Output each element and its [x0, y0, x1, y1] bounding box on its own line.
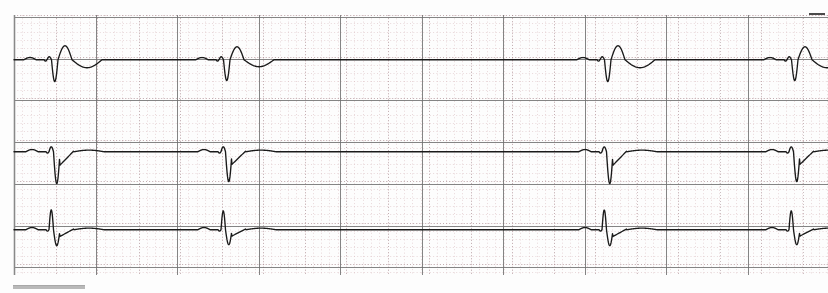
ecg-channel-1	[14, 17, 828, 100]
edge-dash-mark	[809, 13, 825, 15]
ecg-marks-layer	[0, 0, 828, 293]
ecg-channel-2	[14, 110, 828, 196]
ecg-channel-3	[14, 196, 828, 272]
calibration-bar	[13, 285, 85, 289]
ecg-strip-page	[0, 0, 828, 293]
